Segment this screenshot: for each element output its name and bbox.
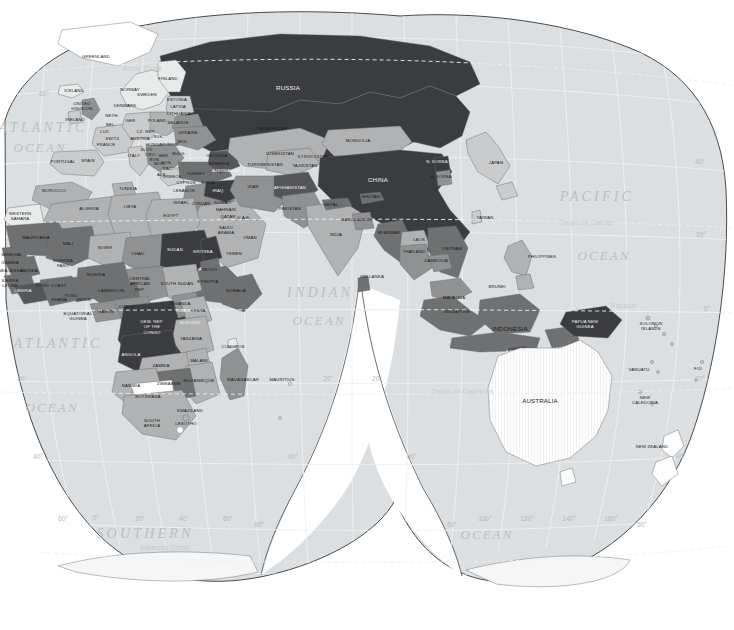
country-label-namibia: NAMIBIA [122, 383, 141, 388]
country-label-mauritius: MAURITIUS [270, 377, 295, 382]
graticule-label-0: 60° [39, 90, 49, 97]
ocean-label-8: SOUTHERN [96, 526, 193, 541]
country-label-sudan: SUDAN [167, 247, 183, 252]
country-label-egypt: EGYPT [163, 213, 179, 218]
ocean-label-9: OCEAN [460, 527, 513, 542]
country-label-svk: SVK. [154, 134, 164, 139]
country-label-east-timor: EAST TIMOR [506, 349, 534, 354]
country-label-zimbabwe: ZIMBABWE [157, 381, 181, 386]
ocean-label-7: OCEAN [577, 248, 630, 263]
world-map-container: ATLANTICOCEANATLANTICOCEANINDIANOCEANPAC… [0, 0, 734, 630]
country-label-israel: ISRAEL [173, 200, 190, 205]
country-label-dem-rep-of-the-congo: DEM. REP.OF THECONGO [141, 319, 164, 334]
graticule-label-19: 100° [478, 515, 492, 522]
ocean-label-2: ATLANTIC [13, 336, 103, 351]
country-label-mauritania: MAURITANIA [22, 235, 50, 240]
country-label-benin: BENIN [77, 297, 91, 302]
country-label-n-korea: N. KOREA [426, 159, 448, 164]
reference-line-label-0: Arctic Circle [123, 65, 162, 72]
country-label-nepal: NEPAL [324, 202, 339, 207]
country-label-bulg: BULG. [172, 151, 186, 156]
country-label-angola: ANGOLA [122, 352, 141, 357]
world-map-svg: ATLANTICOCEANATLANTICOCEANINDIANOCEANPAC… [0, 0, 734, 630]
country-label-australia: AUSTRALIA [522, 397, 558, 404]
ocean-label-5: OCEAN [292, 313, 345, 328]
country-label-france: FRANCE [97, 142, 116, 147]
country-label-burundi: BURUNDI [180, 320, 201, 325]
country-label-greece: GREECE [162, 174, 181, 179]
country-label-south-sudan: SOUTH SUDAN [161, 281, 194, 286]
graticule-label-9: 40° [288, 453, 298, 460]
country-label-japan: JAPAN [489, 160, 503, 165]
country-label-cambodia: CAMBODIA [424, 258, 448, 263]
graticule-label-4: 20° [17, 375, 27, 382]
country-label-lithuania: LITHUANIA [167, 111, 191, 116]
graticule-label-18: 60° [447, 521, 457, 528]
country-label-guinea: GUINEA [20, 268, 37, 273]
country-label-thailand: THAILAND [403, 249, 425, 254]
country-label-myanmar: MYANMAR [378, 230, 401, 235]
country-label-fiji: FIJI [694, 366, 702, 371]
country-label-iraq: IRAQ [212, 188, 224, 193]
country-label-comoros: COMOROS [221, 344, 245, 349]
ocean-label-4: INDIAN [286, 285, 353, 300]
country-label-jordan: JORDAN [192, 201, 211, 206]
graticule-label-6: 20° [372, 375, 382, 382]
graticule-label-2: 20° [696, 231, 706, 238]
country-label-spain: SPAIN [81, 158, 94, 163]
country-label-sri-lanka: SRI LANKA [360, 274, 384, 279]
graticule-label-1: 40° [695, 158, 705, 165]
graticule-label-15: 40° [179, 515, 189, 522]
country-label-ukraine: UKRAINE [178, 130, 198, 135]
country-label-belarus: BELARUS [167, 120, 188, 125]
graticule-label-21: 140° [562, 515, 576, 522]
country-label-neth: NETH. [105, 113, 119, 118]
country-label-madagascar: MADAGASCAR [227, 377, 259, 382]
graticule-label-7: 20° [695, 375, 705, 382]
country-label-turkey: TURKEY [187, 171, 205, 176]
ocean-label-3: OCEAN [25, 400, 78, 415]
country-label-kos: KOS. [162, 160, 173, 165]
country-label-nigeria: NIGERIA [87, 272, 106, 277]
country-label-niger: NIGER [98, 245, 112, 250]
graticule-label-8: 40° [33, 453, 43, 460]
country-label-eritrea: ERITREA [193, 249, 213, 254]
reference-line-label-2: Equator [611, 302, 637, 310]
reference-line-label-1: Tropic of Cancer [560, 219, 614, 227]
country-label-cz-rep: CZ. REP. [137, 129, 156, 134]
country-label-syria: SYRIA [201, 180, 215, 185]
country-label-south-africa: SOUTHAFRICA [144, 418, 161, 428]
country-label-kuwait: KUWAIT [214, 200, 232, 205]
country-label-poland: POLAND [148, 118, 167, 123]
graticule-label-20: 120° [520, 515, 534, 522]
country-label-sierra-leone: SIERRALEONE [2, 278, 19, 288]
country-label-taiwan: TAIWAN [476, 215, 493, 220]
country-label-georgia: GEORGIA [206, 153, 227, 158]
graticule-label-23: 60° [637, 521, 647, 528]
country-label-djibouti: DJIBOUTI [197, 267, 218, 272]
country-label-turkmenistan: TURKMENISTAN [247, 162, 282, 167]
country-label-lesotho: LESOTHO [175, 421, 197, 426]
country-label-estonia: ESTONIA [167, 97, 187, 102]
country-label-kenya: KENYA [191, 308, 206, 313]
country-label-saudi-arabia: SAUDIARABIA [218, 225, 235, 235]
country-label-lebanon: LEBANON [173, 188, 195, 193]
country-label-finland: FINLAND [158, 76, 177, 81]
country-label-iran: IRAN [248, 184, 259, 189]
country-label-bel: BEL. [106, 122, 116, 127]
country-label-morocco: MOROCCO [42, 188, 66, 193]
country-label-ivory-coast: IVORY COAST [36, 283, 67, 288]
country-label-ser: SER. [159, 153, 170, 158]
country-label-afghanistan: AFGHANISTAN [274, 185, 306, 190]
country-label-gabon: GABON [98, 309, 114, 314]
country-label-mac: MAC. [162, 166, 173, 171]
country-label-iceland: ICELAND [64, 88, 84, 93]
country-label-kyrgyzstan: KYRGYZSTAN [298, 154, 328, 159]
country-label-mongolia: MONGOLIA [346, 138, 370, 143]
country-label-senegal: SENEGAL [1, 252, 23, 257]
country-label-singapore: SINGAPORE [444, 309, 471, 314]
ocean-label-0: ATLANTIC [0, 120, 87, 135]
country-label-solomon-islands: SOLOMONISLANDS [639, 321, 662, 331]
reference-line-label-4: Antarctic Circle [140, 544, 189, 551]
country-label-bahrain: BAHRAIN [216, 207, 236, 212]
